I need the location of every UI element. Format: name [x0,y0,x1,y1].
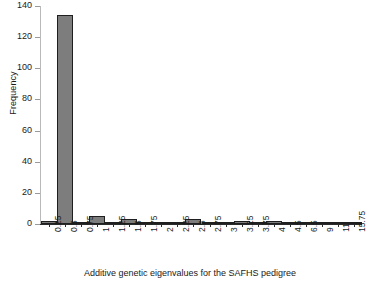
x-tick-label: 2.5 [197,220,207,232]
x-tick-label: 0.5 [69,220,79,232]
y-tick-label: 20 [6,187,32,197]
y-tick [35,37,40,38]
x-tick [306,224,307,227]
x-tick [65,224,66,227]
histogram-figure: Frequency 020406080100120140 0.250.50.75… [0,0,380,285]
x-tick [322,224,323,227]
x-axis-label: Additive genetic eigenvalues for the SAF… [0,268,380,278]
x-tick-label: 4.5 [293,220,303,232]
y-tick-label: 40 [6,156,32,166]
y-tick-label: 120 [6,31,32,41]
x-tick-label: 2 [165,227,175,232]
x-tick [97,224,98,227]
x-tick [193,224,194,227]
x-tick-label: 3 [229,227,239,232]
y-tick-label: 140 [6,0,32,10]
x-tick-label: 1.75 [149,215,159,232]
x-tick-label: 1 [101,227,111,232]
x-tick [145,224,146,227]
plot-area: 020406080100120140 0.250.50.7511.251.51.… [40,6,362,224]
y-tick-label: 80 [6,93,32,103]
x-tick-label: 1.25 [117,215,127,232]
x-tick [161,224,162,227]
y-tick-label: 0 [6,218,32,228]
x-tick [129,224,130,227]
x-tick [290,224,291,227]
x-tick [258,224,259,227]
y-tick [35,6,40,7]
y-tick [35,162,40,163]
x-tick [49,224,50,227]
x-tick-label: 2.25 [181,215,191,232]
bar [57,15,73,224]
x-tick-label: 1.5 [133,220,143,232]
y-tick [35,99,40,100]
x-tick [338,224,339,227]
x-tick [210,224,211,227]
x-tick [81,224,82,227]
y-tick [35,193,40,194]
x-tick-label: 0.75 [85,215,95,232]
x-tick-label: 15.75 [357,211,367,232]
y-tick [35,131,40,132]
y-tick-label: 100 [6,62,32,72]
x-tick-label: 2.75 [213,215,223,232]
y-tick [35,68,40,69]
x-tick [242,224,243,227]
x-tick-label: 6.5 [309,220,319,232]
x-tick [113,224,114,227]
x-tick [274,224,275,227]
x-tick-label: 4 [277,227,287,232]
y-tick-label: 60 [6,125,32,135]
y-tick [35,224,40,225]
x-tick-label: 9 [325,227,335,232]
x-tick [354,224,355,227]
x-tick [177,224,178,227]
x-tick-label: 3.75 [261,215,271,232]
x-tick-label: 0.25 [53,215,63,232]
bar-group [41,6,362,224]
x-tick-label: 11 [341,223,351,232]
x-tick [226,224,227,227]
x-tick-label: 3.25 [245,215,255,232]
